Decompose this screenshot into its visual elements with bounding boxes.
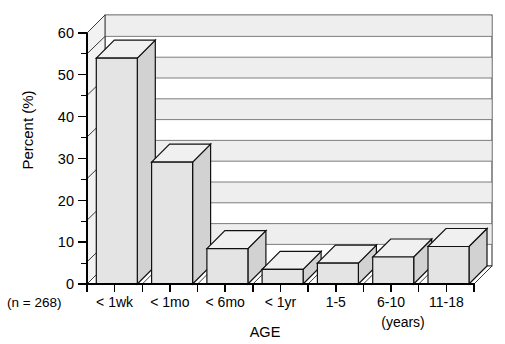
- x-axis-title: AGE: [250, 324, 281, 340]
- y-axis-title: Percent (%): [19, 90, 36, 169]
- y-tick-label-30: 30: [58, 151, 74, 167]
- x-axis-tick-labels: < 1wk < 1mo < 6mo < 1yr 1-5 6-10 11-18: [96, 294, 464, 310]
- x-tick-label-lt-6mo: < 6mo: [206, 294, 246, 310]
- y-axis-tick-labels: 0 10 20 30 40 50 60: [58, 25, 74, 292]
- x-tick-label-lt-1yr: < 1yr: [265, 294, 297, 310]
- y-tick-label-50: 50: [58, 67, 74, 83]
- bar-chart-figure: 0 10 20 30 40 50 60 Percent (%): [0, 0, 505, 344]
- x-tick-label-lt-1mo: < 1mo: [150, 294, 190, 310]
- y-tick-label-0: 0: [66, 276, 74, 292]
- x-tick-label-lt-1wk: < 1wk: [96, 294, 134, 310]
- bar-11-18[interactable]: [428, 229, 487, 285]
- x-tick-label-11-18: 11-18: [429, 294, 464, 310]
- y-tick-label-10: 10: [58, 234, 74, 250]
- y-tick-label-20: 20: [58, 193, 74, 209]
- sample-size-note: (n = 268): [7, 295, 61, 310]
- y-axis-major-ticks: [78, 33, 87, 284]
- x-tick-label-1-5: 1-5: [326, 294, 346, 310]
- x-axis-units-note: (years): [381, 314, 425, 330]
- y-tick-label-60: 60: [58, 25, 74, 41]
- x-axis: < 1wk < 1mo < 6mo < 1yr 1-5 6-10 11-18 (…: [86, 284, 475, 340]
- bar-lt-1wk[interactable]: [96, 40, 155, 284]
- y-tick-label-40: 40: [58, 109, 74, 125]
- chart-canvas: 0 10 20 30 40 50 60 Percent (%): [0, 0, 505, 344]
- x-tick-label-6-10: 6-10: [377, 294, 405, 310]
- x-axis-ticks: [87, 284, 474, 292]
- y-axis: 0 10 20 30 40 50 60 Percent (%): [19, 25, 87, 292]
- bar-lt-1mo[interactable]: [152, 144, 211, 284]
